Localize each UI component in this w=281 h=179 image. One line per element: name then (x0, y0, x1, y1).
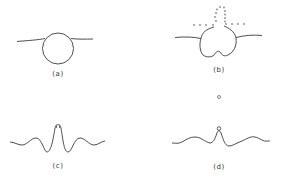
panel-b (175, 6, 262, 57)
jet-tip-c (57, 126, 60, 129)
panel-a (17, 33, 93, 64)
panel-label-d: (d) (213, 163, 224, 171)
panel-label-c: (c) (53, 162, 64, 170)
dotted-jet-outline (193, 6, 245, 26)
surface-line-b (175, 35, 262, 38)
panel-c (10, 125, 105, 153)
bubble-circle-a (43, 33, 74, 64)
wave-surface-c (10, 125, 105, 153)
ejected-droplet-near (217, 127, 221, 131)
diagram-canvas (0, 0, 281, 179)
bubble-outline-b (200, 26, 236, 57)
wave-surface-d (172, 131, 270, 146)
surface-line-a (17, 39, 93, 42)
panel-label-b: (b) (213, 66, 224, 74)
ejected-droplet-far (218, 96, 221, 99)
panel-d (172, 96, 270, 147)
panel-label-a: (a) (52, 70, 63, 78)
